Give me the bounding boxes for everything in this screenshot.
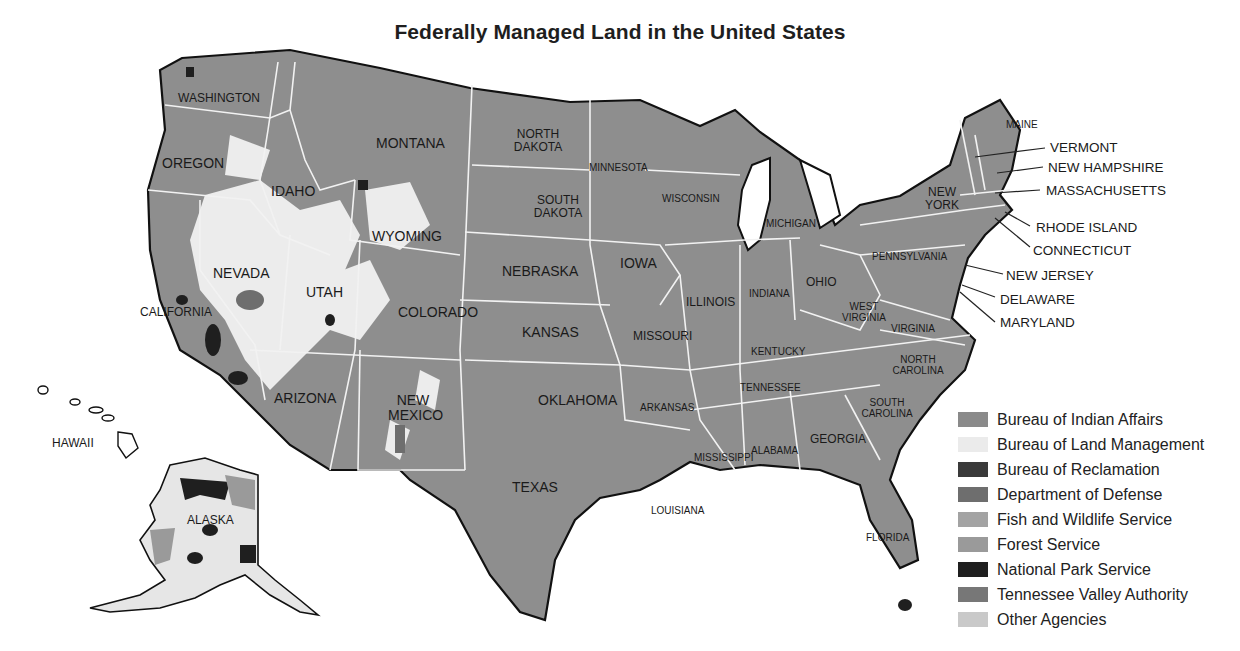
state-label-alabama: ALABAMA — [751, 446, 798, 457]
state-label-louisiana: LOUISIANA — [651, 506, 704, 517]
state-label-idaho: IDAHO — [271, 184, 315, 199]
legend-item-other: Other Agencies — [958, 607, 1204, 632]
state-label-nebraska: NEBRASKA — [502, 264, 578, 279]
state-label-montana: MONTANA — [376, 136, 445, 151]
state-label-utah: UTAH — [306, 285, 343, 300]
legend-label: Forest Service — [997, 536, 1100, 554]
state-label-oklahoma: OKLAHOMA — [538, 393, 617, 408]
legend-item-bia: Bureau of Indian Affairs — [958, 407, 1204, 432]
legend-swatch — [958, 562, 988, 577]
callout-maryland: MARYLAND — [1000, 315, 1075, 330]
legend-swatch — [958, 512, 988, 527]
legend-swatch — [958, 487, 988, 502]
legend-item-bor: Bureau of Reclamation — [958, 457, 1204, 482]
state-label-south-carolina: SOUTH CAROLINA — [860, 398, 914, 419]
state-label-tennessee: TENNESSEE — [740, 383, 801, 394]
legend-item-fs: Forest Service — [958, 532, 1204, 557]
legend-label: Bureau of Indian Affairs — [997, 411, 1163, 429]
legend-swatch — [958, 412, 988, 427]
legend-label: Other Agencies — [997, 611, 1106, 629]
state-label-iowa: IOWA — [620, 256, 657, 271]
state-label-kentucky: KENTUCKY — [751, 347, 805, 358]
callout-new-jersey: NEW JERSEY — [1006, 268, 1094, 283]
state-label-alaska: ALASKA — [187, 514, 234, 527]
state-label-wyoming: WYOMING — [372, 229, 442, 244]
state-label-illinois: ILLINOIS — [686, 296, 735, 309]
state-label-ohio: OHIO — [806, 276, 837, 289]
legend-label: Department of Defense — [997, 486, 1162, 504]
legend: Bureau of Indian Affairs Bureau of Land … — [958, 407, 1204, 632]
state-label-wisconsin: WISCONSIN — [662, 194, 720, 205]
legend-swatch — [958, 612, 988, 627]
legend-item-blm: Bureau of Land Management — [958, 432, 1204, 457]
callout-massachusetts: MASSACHUSETTS — [1046, 183, 1166, 198]
state-label-minnesota: MINNESOTA — [589, 163, 648, 174]
state-label-missouri: MISSOURI — [633, 330, 692, 343]
state-label-washington: WASHINGTON — [178, 92, 260, 105]
legend-label: Fish and Wildlife Service — [997, 511, 1172, 529]
state-label-pennsylvania: PENNSYLVANIA — [872, 252, 947, 263]
state-label-colorado: COLORADO — [398, 305, 478, 320]
legend-label: Bureau of Reclamation — [997, 461, 1160, 479]
state-label-florida: FLORIDA — [866, 533, 909, 544]
state-label-hawaii: HAWAII — [52, 437, 94, 450]
state-label-maine: MAINE — [1006, 120, 1038, 131]
legend-swatch — [958, 462, 988, 477]
state-label-arkansas: ARKANSAS — [640, 403, 694, 414]
state-label-north-carolina: NORTH CAROLINA — [890, 355, 946, 376]
state-label-north-dakota: NORTH DAKOTA — [508, 128, 568, 153]
state-label-new-mexico: NEW MEXICO — [388, 393, 438, 422]
state-label-new-york: NEW YORK — [924, 186, 960, 211]
state-label-michigan: MICHIGAN — [766, 219, 816, 230]
legend-swatch — [958, 537, 988, 552]
state-label-texas: TEXAS — [512, 480, 558, 495]
state-label-indiana: INDIANA — [749, 289, 790, 300]
callout-delaware: DELAWARE — [1000, 292, 1075, 307]
legend-label: Bureau of Land Management — [997, 436, 1204, 454]
legend-item-nps: National Park Service — [958, 557, 1204, 582]
legend-swatch — [958, 587, 988, 602]
legend-item-tva: Tennessee Valley Authority — [958, 582, 1204, 607]
state-label-arizona: ARIZONA — [274, 391, 336, 406]
legend-label: Tennessee Valley Authority — [997, 586, 1188, 604]
callout-connecticut: CONNECTICUT — [1033, 243, 1131, 258]
legend-swatch — [958, 437, 988, 452]
state-label-nevada: NEVADA — [213, 266, 270, 281]
callout-new-hampshire: NEW HAMPSHIRE — [1048, 160, 1164, 175]
callout-vermont: VERMONT — [1050, 140, 1118, 155]
state-label-mississippi: MISSISSIPPI — [694, 453, 753, 464]
state-label-california: CALIFORNIA — [140, 306, 212, 319]
legend-item-fws: Fish and Wildlife Service — [958, 507, 1204, 532]
state-label-kansas: KANSAS — [522, 325, 579, 340]
state-label-west-virginia: WEST VIRGINIA — [842, 302, 886, 323]
state-label-oregon: OREGON — [162, 156, 224, 171]
callout-rhode-island: RHODE ISLAND — [1036, 220, 1137, 235]
legend-item-dod: Department of Defense — [958, 482, 1204, 507]
state-label-virginia: VIRGINIA — [891, 324, 935, 335]
legend-label: National Park Service — [997, 561, 1151, 579]
state-label-georgia: GEORGIA — [810, 433, 866, 446]
state-label-south-dakota: SOUTH DAKOTA — [530, 194, 586, 219]
